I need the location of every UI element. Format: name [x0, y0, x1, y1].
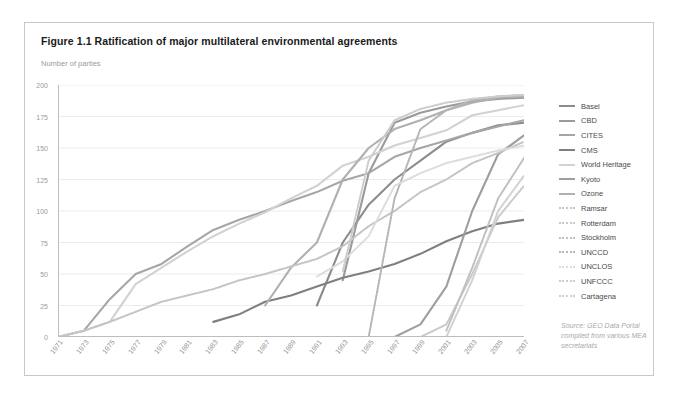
figure-title: Figure 1.1 Ratification of major multila…	[41, 35, 398, 47]
plot-area	[58, 85, 524, 337]
x-axis-tick: 1987	[256, 339, 271, 356]
legend-swatch	[559, 105, 575, 107]
legend-swatch	[559, 266, 575, 268]
legend-swatch	[559, 149, 575, 151]
x-axis-tick: 1973	[75, 339, 90, 356]
legend-swatch	[559, 120, 575, 122]
x-axis-tick: 1999	[411, 339, 426, 356]
y-axis-tick: 25	[40, 302, 48, 309]
legend-item-cbd[interactable]: CBD	[559, 114, 655, 129]
legend-item-kyoto[interactable]: Kyoto	[559, 172, 655, 187]
x-axis-tick: 1971	[49, 339, 64, 356]
legend-label: World Heritage	[581, 160, 631, 169]
plot-frame	[58, 85, 524, 337]
source-note: Source: GEO Data Portalcompiled from var…	[561, 321, 678, 351]
legend-label: CBD	[581, 116, 597, 125]
legend-item-rotterdam[interactable]: Rotterdam	[559, 216, 655, 231]
legend-swatch	[559, 251, 575, 253]
legend-item-cites[interactable]: CITES	[559, 128, 655, 143]
legend-label: Kyoto	[581, 175, 600, 184]
legend-item-unfccc[interactable]: UNFCCC	[559, 274, 655, 289]
legend-swatch	[559, 164, 575, 166]
x-axis-tick: 1975	[101, 339, 116, 356]
x-axis-tick: 2001	[437, 339, 452, 356]
x-axis-tick: 2007	[515, 339, 530, 356]
legend-swatch	[559, 178, 575, 180]
y-axis-tick: 200	[36, 82, 48, 89]
legend-label: Ozone	[581, 189, 603, 198]
legend-label: UNCLOS	[581, 262, 612, 271]
legend-swatch	[559, 134, 575, 136]
x-axis-tick: 1997	[385, 339, 400, 356]
source-note-line: Source: GEO Data Portal	[561, 321, 678, 331]
legend-label: CMS	[581, 146, 598, 155]
y-axis-label: Number of parties	[41, 59, 101, 68]
x-axis-tick-labels: 1971197319751977197919811983198519871989…	[58, 339, 524, 379]
x-axis-tick: 1977	[126, 339, 141, 356]
y-axis-tick: 100	[36, 208, 48, 215]
x-axis-tick: 1989	[282, 339, 297, 356]
legend-item-ozone[interactable]: Ozone	[559, 187, 655, 202]
legend-item-ramsar[interactable]: Ramsar	[559, 201, 655, 216]
x-axis-tick: 1983	[204, 339, 219, 356]
y-axis-tick: 0	[44, 334, 48, 341]
y-axis-tick: 50	[40, 271, 48, 278]
legend-item-world-heritage[interactable]: World Heritage	[559, 157, 655, 172]
legend-swatch	[559, 237, 575, 239]
x-axis-tick: 1985	[230, 339, 245, 356]
x-axis-tick: 1981	[178, 339, 193, 356]
legend-item-basel[interactable]: Basel	[559, 99, 655, 114]
legend-label: Rotterdam	[581, 219, 616, 228]
legend-label: UNFCCC	[581, 277, 613, 286]
legend-label: Stockholm	[581, 233, 616, 242]
legend-label: UNCCD	[581, 248, 608, 257]
x-axis-tick: 2003	[463, 339, 478, 356]
source-note-line: compiled from various MEA	[561, 331, 678, 341]
y-axis-tick: 75	[40, 239, 48, 246]
y-axis-tick-labels: 0255075100125150175200	[19, 85, 52, 337]
y-axis-tick: 150	[36, 145, 48, 152]
x-axis-tick: 1995	[359, 339, 374, 356]
legend-swatch	[559, 222, 575, 224]
y-axis-tick: 125	[36, 176, 48, 183]
x-axis-tick: 1979	[152, 339, 167, 356]
legend-swatch	[559, 295, 575, 297]
legend: BaselCBDCITESCMSWorld HeritageKyotoOzone…	[559, 99, 655, 303]
legend-swatch	[559, 207, 575, 209]
x-axis-tick: 1991	[308, 339, 323, 356]
legend-label: Basel	[581, 102, 600, 111]
y-axis-tick: 175	[36, 113, 48, 120]
legend-item-unclos[interactable]: UNCLOS	[559, 260, 655, 275]
source-note-line: secretariats	[561, 341, 678, 351]
legend-label: Ramsar	[581, 204, 607, 213]
legend-item-cms[interactable]: CMS	[559, 143, 655, 158]
legend-item-cartagena[interactable]: Cartagena	[559, 289, 655, 304]
x-axis-tick: 1993	[334, 339, 349, 356]
x-axis-tick: 2005	[489, 339, 504, 356]
legend-item-unccd[interactable]: UNCCD	[559, 245, 655, 260]
legend-item-stockholm[interactable]: Stockholm	[559, 230, 655, 245]
legend-swatch	[559, 280, 575, 282]
legend-label: CITES	[581, 131, 603, 140]
figure-card: Figure 1.1 Ratification of major multila…	[24, 22, 654, 376]
legend-swatch	[559, 193, 575, 195]
legend-label: Cartagena	[581, 292, 616, 301]
